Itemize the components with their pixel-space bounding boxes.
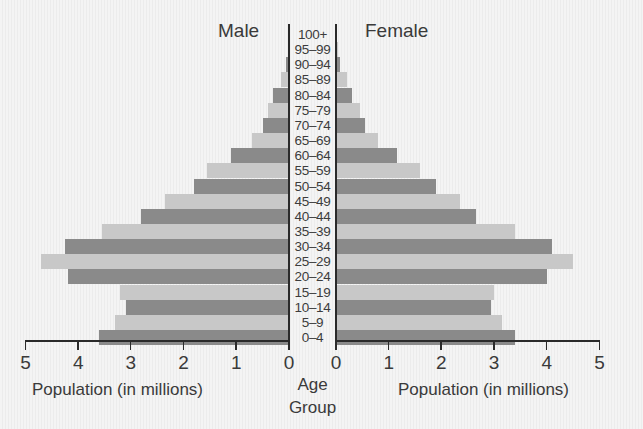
female-tick-label: 4: [537, 352, 557, 374]
female-x-axis-title: Population (in millions): [398, 380, 569, 400]
male-tick-label: 2: [174, 352, 194, 374]
male-x-axis-title: Population (in millions): [32, 380, 203, 400]
age-label: 75–79: [289, 103, 336, 118]
age-label: 30–34: [289, 239, 336, 254]
age-label: 50–54: [289, 179, 336, 194]
male-tick-label: 0: [279, 352, 299, 374]
male-bar-10–14: [126, 300, 289, 315]
female-bar-85–89: [336, 72, 347, 87]
age-label: 90–94: [289, 57, 336, 72]
female-bar-40–44: [336, 209, 476, 224]
age-label: 60–64: [289, 148, 336, 163]
male-bar-55–59: [207, 163, 289, 178]
age-label: 70–74: [289, 118, 336, 133]
age-label: 80–84: [289, 88, 336, 103]
male-tick: [25, 340, 27, 350]
male-bar-75–79: [268, 103, 289, 118]
age-axis-title-line1: Age: [280, 373, 345, 396]
female-bar-70–74: [336, 118, 365, 133]
male-x-axis: [25, 340, 290, 342]
age-label: 55–59: [289, 163, 336, 178]
female-tick-label: 5: [590, 352, 610, 374]
male-bar-60–64: [231, 148, 289, 163]
age-label: 10–14: [289, 300, 336, 315]
female-bar-45–49: [336, 194, 460, 209]
male-bar-30–34: [65, 239, 289, 254]
female-tick: [335, 340, 337, 350]
female-tick: [493, 340, 495, 350]
female-tick-label: 1: [379, 352, 399, 374]
male-tick: [130, 340, 132, 350]
male-bar-80–84: [273, 88, 289, 103]
age-label: 40–44: [289, 209, 336, 224]
male-bar-20–24: [68, 269, 289, 284]
male-tick: [288, 340, 290, 350]
female-bar-25–29: [336, 254, 573, 269]
male-tick: [235, 340, 237, 350]
male-bar-45–49: [165, 194, 289, 209]
male-title: Male: [218, 20, 259, 42]
age-label: 25–29: [289, 254, 336, 269]
age-label: 65–69: [289, 133, 336, 148]
age-label: 5–9: [289, 315, 336, 330]
male-bar-5–9: [115, 315, 289, 330]
female-tick: [440, 340, 442, 350]
female-bar-50–54: [336, 179, 436, 194]
male-bar-65–69: [252, 133, 289, 148]
left-center-axis-line: [288, 24, 290, 341]
male-tick-label: 1: [226, 352, 246, 374]
female-tick: [388, 340, 390, 350]
female-bar-5–9: [336, 315, 502, 330]
female-x-axis: [335, 340, 600, 342]
male-tick-label: 3: [121, 352, 141, 374]
female-bar-35–39: [336, 224, 515, 239]
male-tick: [77, 340, 79, 350]
female-bar-55–59: [336, 163, 420, 178]
age-label: 35–39: [289, 224, 336, 239]
right-center-axis-line: [335, 24, 337, 341]
female-bar-75–79: [336, 103, 360, 118]
female-bar-20–24: [336, 269, 547, 284]
age-label: 20–24: [289, 269, 336, 284]
male-bar-0–4: [99, 330, 289, 345]
female-bar-90–94: [336, 57, 340, 72]
age-label: 45–49: [289, 194, 336, 209]
age-label: 15–19: [289, 285, 336, 300]
female-tick-label: 3: [484, 352, 504, 374]
female-title: Female: [365, 20, 428, 42]
male-bar-40–44: [141, 209, 289, 224]
female-bar-60–64: [336, 148, 397, 163]
female-bar-15–19: [336, 285, 494, 300]
female-tick-label: 2: [431, 352, 451, 374]
male-tick-label: 5: [16, 352, 36, 374]
age-label: 95–99: [289, 42, 336, 57]
male-bar-15–19: [120, 285, 289, 300]
male-bar-35–39: [102, 224, 289, 239]
female-bar-30–34: [336, 239, 552, 254]
age-label: 85–89: [289, 72, 336, 87]
age-axis-title-line2: Group: [280, 396, 345, 419]
male-bar-25–29: [41, 254, 289, 269]
female-bar-80–84: [336, 88, 352, 103]
male-tick-label: 4: [68, 352, 88, 374]
male-bar-50–54: [194, 179, 289, 194]
male-tick: [183, 340, 185, 350]
female-bar-0–4: [336, 330, 515, 345]
female-tick: [599, 340, 601, 350]
female-tick: [546, 340, 548, 350]
population-pyramid-chart: Male Female 100+95–9990–9485–8980–8475–7…: [0, 0, 643, 429]
age-label: 100+: [289, 27, 336, 42]
female-tick-label: 0: [326, 352, 346, 374]
female-bar-65–69: [336, 133, 378, 148]
female-bar-10–14: [336, 300, 491, 315]
age-label: 0–4: [289, 330, 336, 345]
male-bar-70–74: [263, 118, 289, 133]
